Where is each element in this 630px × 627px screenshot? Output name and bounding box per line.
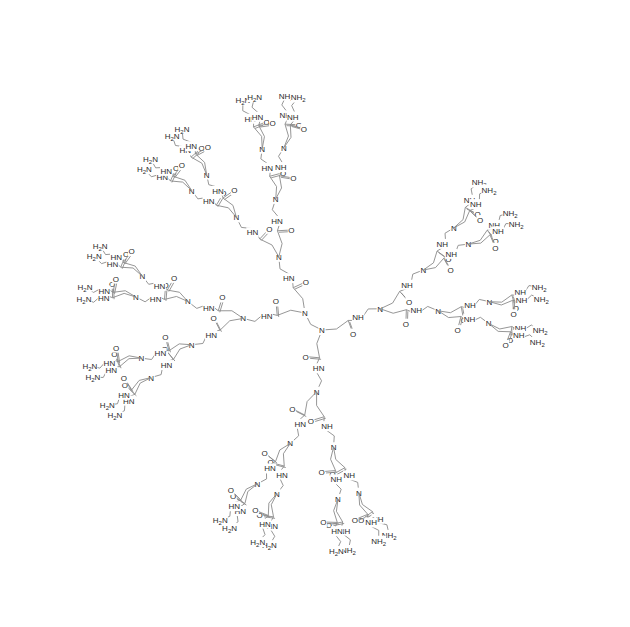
carbonyl-oxygen: O bbox=[289, 404, 296, 414]
svg-text:O: O bbox=[448, 266, 454, 275]
svg-text:HN: HN bbox=[259, 520, 271, 529]
svg-text:N: N bbox=[420, 266, 426, 275]
svg-text:N: N bbox=[204, 171, 210, 180]
bond bbox=[463, 207, 465, 219]
carbonyl-oxygen: O bbox=[290, 173, 297, 183]
svg-text:O: O bbox=[113, 275, 119, 284]
carbonyl-oxygen: O bbox=[261, 448, 268, 458]
amide-nh: NH bbox=[492, 226, 504, 236]
amide-nh: HN bbox=[283, 273, 295, 283]
svg-text:N: N bbox=[319, 326, 325, 335]
svg-text:HN: HN bbox=[264, 464, 276, 473]
carbonyl-oxygen: O bbox=[231, 185, 238, 195]
amide-nh: HN bbox=[228, 501, 240, 511]
dendrimer-diagram: OHNNOHNNOHNNOHNH2NOHNH2NOHNNOHNH2NOHNH2N… bbox=[0, 0, 630, 627]
amide-nh: NH bbox=[330, 474, 342, 484]
carbonyl-oxygen: O bbox=[162, 332, 169, 342]
svg-text:HN: HN bbox=[283, 274, 295, 283]
terminal-amine: H2N bbox=[143, 154, 158, 165]
amide-nh: NH bbox=[321, 421, 333, 431]
amide-nh: HN bbox=[153, 281, 165, 291]
terminal-amine: NH2 bbox=[481, 185, 497, 196]
svg-text:HN: HN bbox=[203, 197, 215, 206]
terminal-amine: H2N bbox=[250, 537, 265, 548]
amide-nh: HN bbox=[331, 526, 343, 536]
svg-text:HN: HN bbox=[212, 187, 224, 196]
terminal-amine: H2N bbox=[213, 515, 228, 526]
amide-nh: HN bbox=[261, 163, 273, 173]
svg-text:O: O bbox=[171, 274, 177, 283]
svg-text:O: O bbox=[162, 333, 168, 342]
amide-nh: HN bbox=[264, 463, 276, 473]
amide-nh: NH bbox=[275, 162, 287, 172]
svg-text:HN: HN bbox=[99, 287, 111, 296]
amide-nh: NH bbox=[410, 305, 422, 315]
amide-nh: NH bbox=[436, 239, 448, 249]
bond bbox=[393, 291, 400, 303]
svg-text:HN: HN bbox=[252, 113, 264, 122]
bond bbox=[393, 310, 406, 314]
svg-text:N: N bbox=[302, 309, 308, 318]
svg-text:O: O bbox=[492, 244, 498, 253]
bond bbox=[336, 459, 345, 467]
svg-text:HN: HN bbox=[276, 471, 288, 480]
svg-text:HN: HN bbox=[229, 502, 241, 511]
bond bbox=[270, 176, 277, 186]
core-nitrogen: N bbox=[318, 325, 325, 335]
amide-nh: HN bbox=[261, 311, 273, 321]
bond bbox=[277, 230, 288, 231]
svg-text:HN: HN bbox=[331, 527, 343, 536]
amide-nh: HN bbox=[149, 294, 161, 304]
carbonyl-oxygen: O bbox=[492, 243, 499, 253]
svg-text:HN: HN bbox=[261, 312, 273, 321]
amide-nh: HN bbox=[160, 360, 172, 370]
amide-nh: HN bbox=[294, 419, 306, 429]
amide-nh: HN bbox=[98, 286, 110, 296]
bond bbox=[317, 405, 325, 416]
svg-text:O: O bbox=[273, 297, 279, 306]
carbonyl-oxygen: O bbox=[510, 309, 517, 319]
svg-text:O: O bbox=[454, 326, 460, 335]
svg-text:HN: HN bbox=[150, 295, 162, 304]
svg-text:NH: NH bbox=[321, 422, 333, 431]
svg-text:HN: HN bbox=[271, 217, 283, 226]
svg-text:N: N bbox=[466, 240, 472, 249]
svg-text:O: O bbox=[266, 225, 272, 234]
carbonyl-oxygen: O bbox=[288, 225, 295, 235]
bond bbox=[271, 505, 273, 517]
svg-text:NH: NH bbox=[352, 313, 364, 322]
amide-nh: NH bbox=[469, 199, 481, 209]
amide-nh: HN bbox=[276, 470, 288, 480]
carbonyl-oxygen: O bbox=[128, 246, 135, 256]
carbonyl-oxygen: O bbox=[447, 265, 454, 275]
bond bbox=[465, 211, 470, 222]
svg-text:O: O bbox=[289, 405, 295, 414]
bond bbox=[500, 327, 512, 329]
svg-text:NH: NH bbox=[516, 296, 528, 305]
bond bbox=[293, 283, 303, 288]
terminal-amine: NH2 bbox=[530, 337, 546, 348]
molecule-structure: OHNNOHNNOHNNOHNH2NOHNH2NOHNNOHNH2NOHNH2N… bbox=[0, 0, 630, 627]
bond bbox=[241, 489, 247, 500]
terminal-amine: NH2 bbox=[371, 536, 387, 547]
terminal-amine: NH2 bbox=[533, 325, 549, 336]
svg-text:HN: HN bbox=[161, 361, 173, 370]
svg-text:NH: NH bbox=[343, 471, 355, 480]
amide-nh: HN bbox=[110, 252, 122, 262]
carbonyl-oxygen: O bbox=[302, 352, 309, 362]
bond bbox=[336, 511, 342, 522]
bond bbox=[169, 344, 179, 351]
carbonyl-oxygen: O bbox=[272, 296, 279, 306]
svg-text:O: O bbox=[121, 374, 127, 383]
bond bbox=[481, 235, 490, 243]
terminal-amine: H2N bbox=[100, 400, 115, 411]
svg-text:O: O bbox=[270, 119, 276, 128]
svg-text:HN: HN bbox=[154, 282, 166, 291]
carbonyl-oxygen: O bbox=[113, 343, 120, 353]
bond bbox=[317, 344, 320, 358]
amide-nh: NH bbox=[401, 280, 413, 290]
carbonyl-oxygen: O bbox=[178, 160, 185, 170]
svg-text:O: O bbox=[228, 486, 234, 495]
terminal-amine: H2N bbox=[137, 164, 152, 175]
svg-text:HN: HN bbox=[110, 253, 122, 262]
